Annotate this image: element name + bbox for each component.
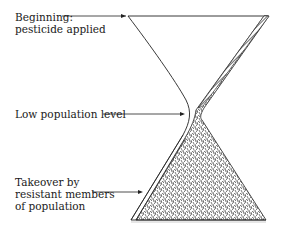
resistant-band [136,16,269,220]
label-beginning: Beginning: pesticide applied [15,11,106,35]
label-low-population: Low population level [15,108,126,120]
label-takeover: Takeover by resistant members of populat… [15,176,115,212]
resistant-band-top [198,16,269,108]
